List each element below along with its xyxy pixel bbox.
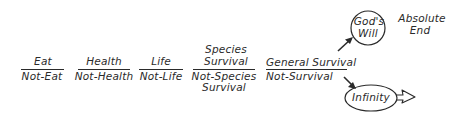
gods-will-line1: God's bbox=[352, 16, 386, 27]
open-arrow-right-icon bbox=[396, 90, 415, 103]
arrow-up-icon bbox=[338, 37, 353, 51]
arrow-down-icon bbox=[344, 77, 356, 89]
gods-will-line2: Will bbox=[352, 28, 384, 39]
diagram-shapes bbox=[0, 0, 461, 122]
absolute-end-line1: Absolute bbox=[396, 13, 448, 24]
absolute-end-line2: End bbox=[396, 25, 444, 36]
infinity-label: Infinity bbox=[346, 92, 396, 103]
